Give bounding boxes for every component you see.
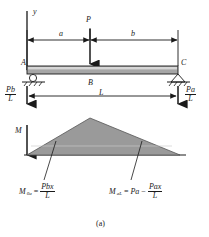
reaction-right-value: Pa L (185, 86, 196, 103)
y-axis-label: y (33, 8, 37, 16)
node-label-a: A (21, 59, 26, 67)
dimension-label-a: a (59, 30, 63, 38)
moment-diagram-triangle (27, 118, 180, 155)
beam-bending-figure: y P a b A B C Pb L L Pa L M M0a = Pbx L … (0, 0, 209, 237)
moment-left-denominator: L (40, 191, 54, 200)
pin-support-a (22, 74, 45, 86)
reaction-left-numerator: Pb (5, 86, 16, 94)
figure-caption: (a) (96, 219, 105, 228)
moment-right-fraction: Pax L (148, 183, 162, 200)
moment-left-symbol: M (19, 187, 26, 196)
moment-right-operator: − (140, 187, 147, 196)
moment-right-equals: = (123, 187, 130, 196)
figure-graphics (0, 0, 209, 237)
reaction-left-denominator: L (5, 94, 16, 103)
beam-body (27, 66, 178, 74)
moment-right-numerator: Pax (148, 183, 162, 191)
reaction-right-numerator: Pa (185, 86, 196, 94)
reaction-right-denominator: L (185, 94, 196, 103)
load-label-p: P (86, 16, 91, 24)
m-axis-label: M (15, 127, 22, 135)
moment-equation-left: M0a = Pbx L (19, 183, 55, 200)
moment-right-first-term: Pa (130, 187, 139, 196)
reaction-left-value: Pb L (5, 86, 16, 103)
dimension-label-b: b (131, 30, 135, 38)
moment-left-fraction: Pbx L (40, 183, 54, 200)
moment-left-numerator: Pbx (40, 183, 54, 191)
node-label-b: B (88, 79, 93, 87)
moment-left-equals: = (33, 187, 40, 196)
moment-left-subscript: 0a (27, 191, 32, 196)
moment-right-denominator: L (148, 191, 162, 200)
moment-right-subscript: aL (117, 191, 122, 196)
moment-equation-right: MaL = Pa − Pax L (109, 183, 162, 200)
node-label-c: C (181, 59, 186, 67)
moment-right-symbol: M (109, 187, 116, 196)
extension-lines (27, 28, 178, 66)
dimension-label-L: L (99, 89, 103, 97)
